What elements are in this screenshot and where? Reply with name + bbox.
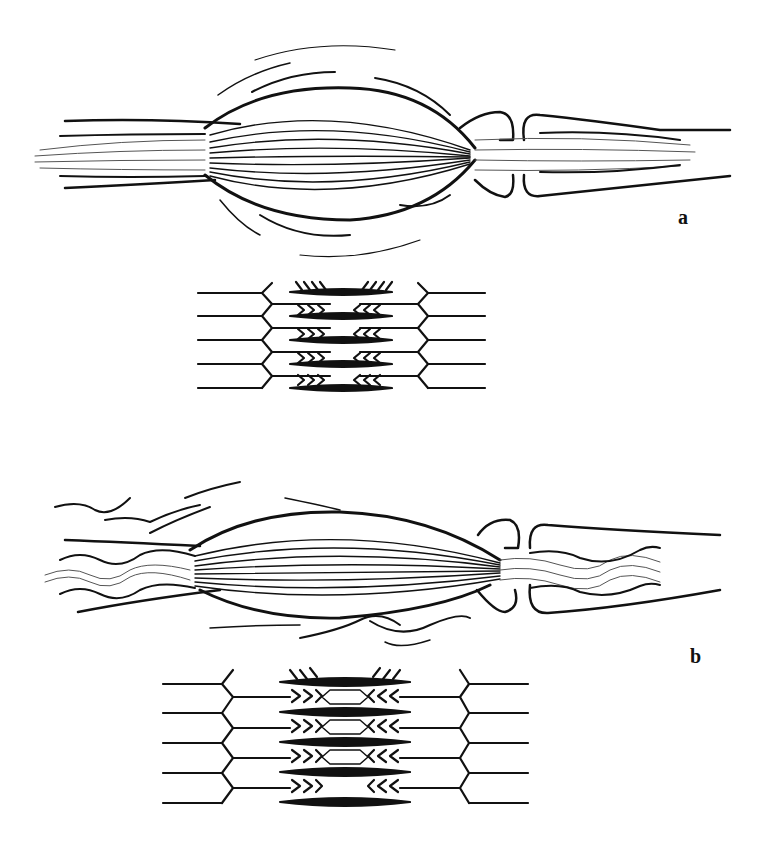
- panel-b-sarcomere: [163, 668, 528, 806]
- muscle-diagram: [0, 0, 761, 846]
- panel-label-a: a: [678, 206, 688, 229]
- panel-label-b: b: [690, 645, 701, 668]
- panel-a-muscle: [35, 46, 730, 257]
- panel-b-muscle: [45, 482, 720, 646]
- panel-a-sarcomere: [198, 282, 485, 391]
